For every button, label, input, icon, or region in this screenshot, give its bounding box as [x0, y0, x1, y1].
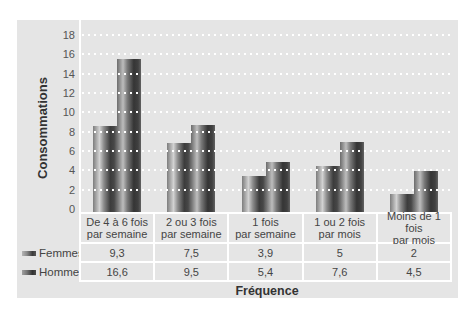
- table-header-cell: De 4 à 6 fois par semaine: [81, 214, 153, 242]
- table-cell-hommes: 7,6: [304, 263, 376, 280]
- x-axis-title: Fréquence: [235, 284, 298, 298]
- table-cell-femmes: 2: [378, 244, 450, 261]
- hommes-legend-swatch-icon: [22, 270, 36, 275]
- gridline: [82, 131, 450, 133]
- table-cell-femmes: 5: [304, 244, 376, 261]
- table-cell-hommes: 16,6: [81, 263, 153, 280]
- bar-hommes: [340, 142, 364, 212]
- y-tick-label: 12: [63, 87, 75, 99]
- table-cell-femmes: 9,3: [81, 244, 153, 261]
- gridline: [82, 150, 450, 152]
- table-header-cell: 2 ou 3 fois par semaine: [155, 214, 227, 242]
- y-tick-label: 8: [69, 126, 75, 138]
- table-cell-hommes: 9,5: [155, 263, 227, 280]
- table-header-cell: 1 fois par semaine: [229, 214, 301, 242]
- bar-femmes: [242, 176, 266, 212]
- bar-hommes: [191, 125, 215, 212]
- table-cell-femmes: 3,9: [229, 244, 301, 261]
- femmes-legend-swatch-icon: [22, 251, 36, 256]
- y-tick-label: 10: [63, 106, 75, 118]
- gridline: [82, 53, 450, 55]
- y-tick-label: 0: [69, 203, 75, 215]
- y-tick-label: 2: [69, 184, 75, 196]
- gridline: [82, 73, 450, 75]
- gridline: [82, 169, 450, 171]
- table-header-cell: 1 ou 2 fois par mois: [304, 214, 376, 242]
- bar-hommes: [414, 171, 438, 212]
- y-tick-label: 16: [63, 48, 75, 60]
- gridline: [82, 189, 450, 191]
- bar-femmes: [167, 143, 191, 212]
- table-cell-hommes: 5,4: [229, 263, 301, 280]
- y-tick-label: 14: [63, 68, 75, 80]
- table-cell-femmes: 7,5: [155, 244, 227, 261]
- gridline: [82, 34, 450, 36]
- legend-item-hommes: Hommes: [22, 266, 85, 278]
- y-tick-label: 4: [69, 164, 75, 176]
- y-tick-label: 6: [69, 145, 75, 157]
- table-cell-hommes: 4,5: [378, 263, 450, 280]
- gridline: [82, 111, 450, 113]
- data-table: De 4 à 6 fois par semaine 2 ou 3 fois pa…: [79, 212, 452, 282]
- y-axis-title: Consommations: [35, 77, 50, 179]
- legend-label-femmes: Femmes: [39, 247, 84, 259]
- y-tick-label: 18: [63, 29, 75, 41]
- table-header-cell: Moins de 1 fois par mois: [378, 214, 450, 242]
- y-axis-separator: [79, 20, 81, 213]
- legend-item-femmes: Femmes: [22, 247, 84, 259]
- gridline: [82, 92, 450, 94]
